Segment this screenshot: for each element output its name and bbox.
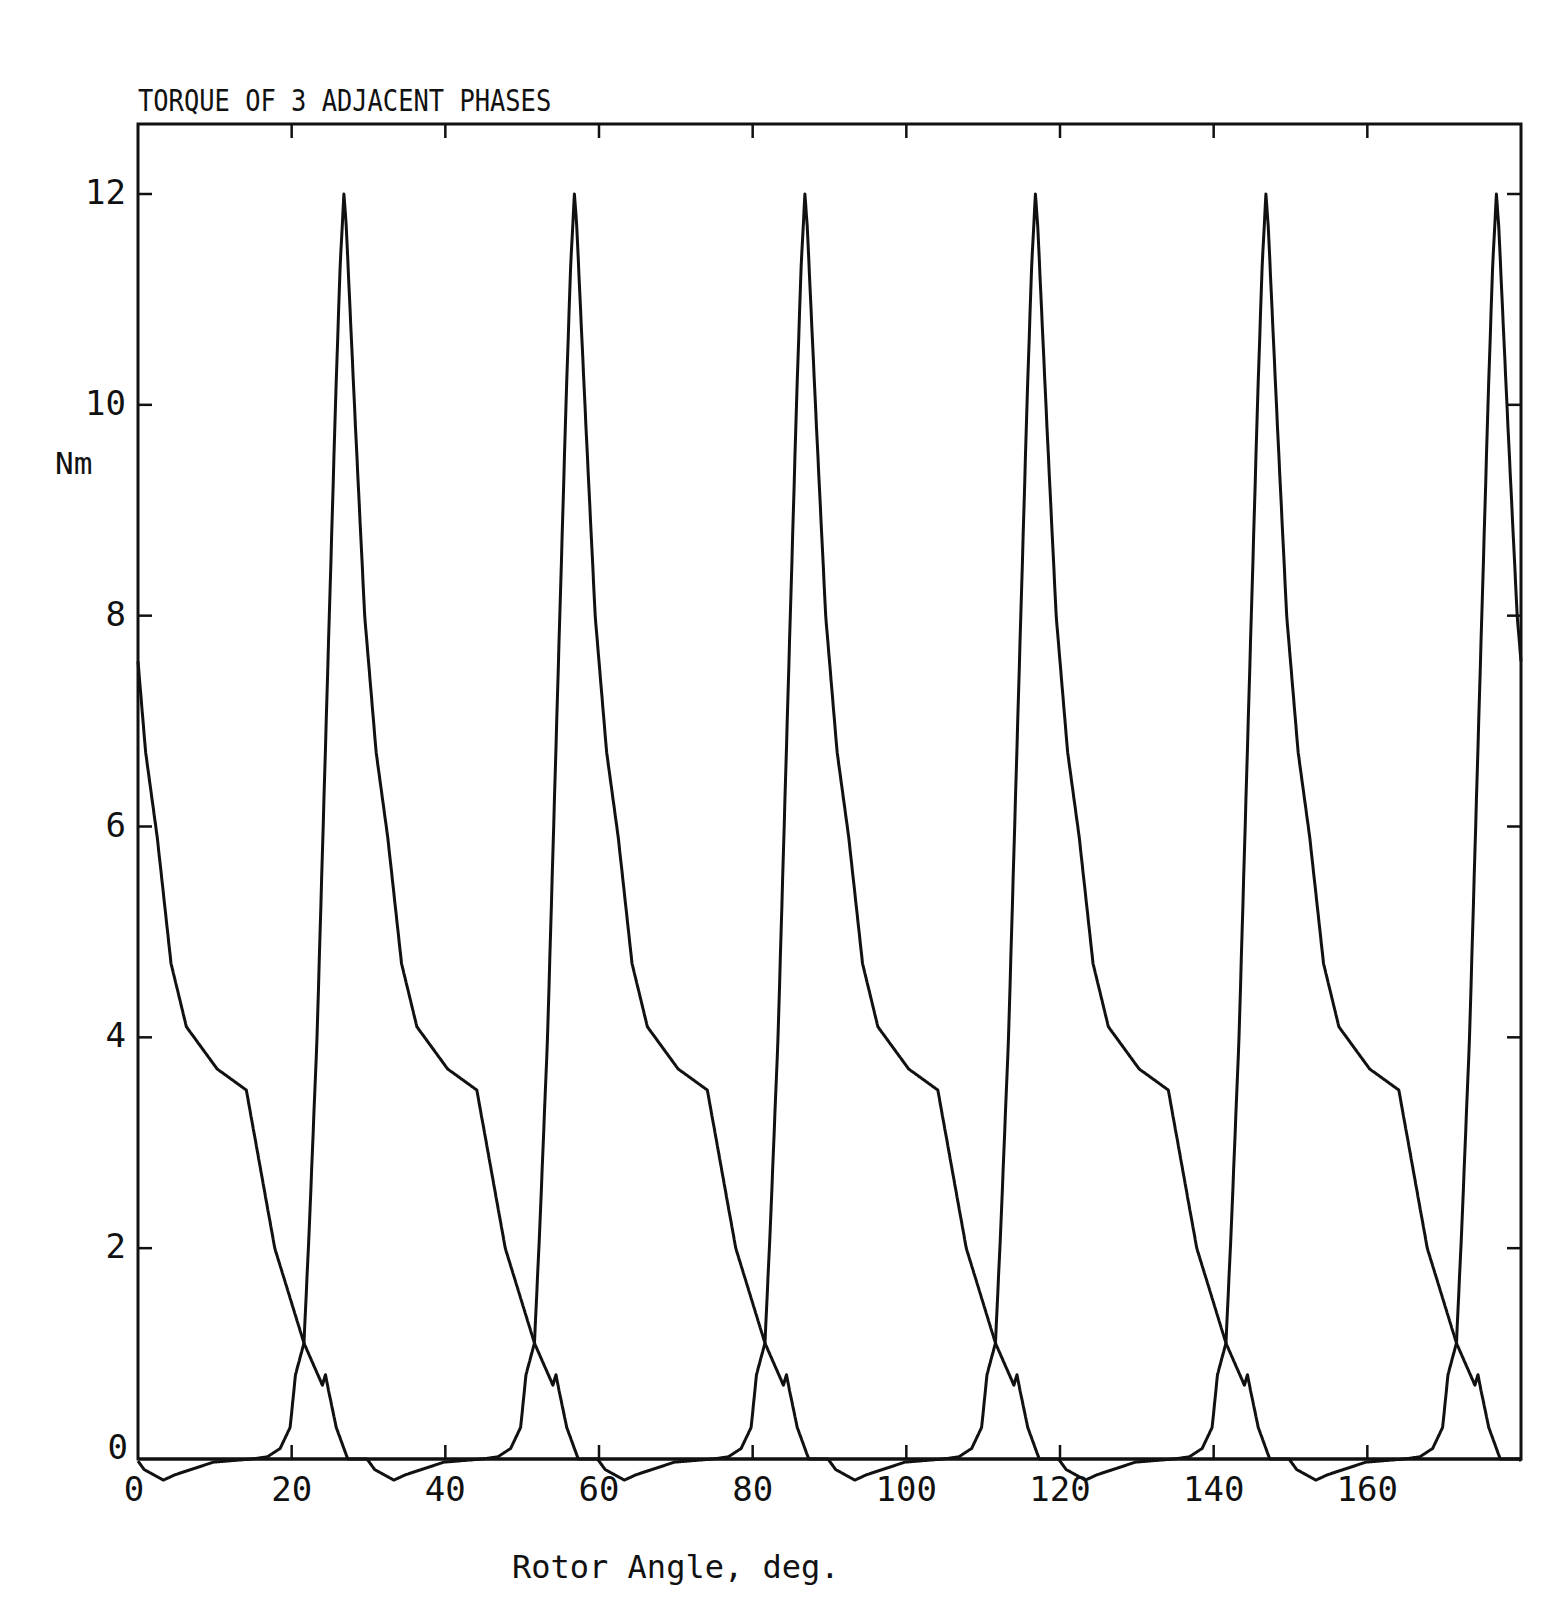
x-tick-label: 100 bbox=[856, 1469, 956, 1509]
series-line-phase-a bbox=[138, 194, 1521, 1480]
x-tick-label: 80 bbox=[703, 1469, 803, 1509]
y-tick-label: 4 bbox=[66, 1015, 126, 1055]
y-tick-label: 0 bbox=[68, 1427, 128, 1467]
series-line-phase-b bbox=[138, 194, 1521, 1480]
plot-area bbox=[0, 0, 1567, 1609]
y-tick-label: 12 bbox=[66, 172, 126, 212]
y-tick-label: 8 bbox=[66, 594, 126, 634]
x-tick-label: 60 bbox=[549, 1469, 649, 1509]
x-tick-label: 160 bbox=[1317, 1469, 1417, 1509]
x-tick-label: 0 bbox=[84, 1469, 184, 1509]
y-tick-label: 2 bbox=[66, 1226, 126, 1266]
x-tick-label: 140 bbox=[1164, 1469, 1264, 1509]
x-tick-label: 20 bbox=[242, 1469, 342, 1509]
x-tick-label: 40 bbox=[395, 1469, 495, 1509]
y-tick-label: 6 bbox=[66, 805, 126, 845]
y-tick-label: 10 bbox=[66, 383, 126, 423]
series-line-phase-c bbox=[138, 194, 1521, 1480]
x-tick-label: 120 bbox=[1010, 1469, 1110, 1509]
plot-frame bbox=[138, 124, 1521, 1459]
